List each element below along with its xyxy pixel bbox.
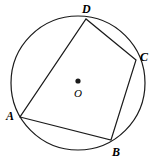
vertex-label-a: A [6, 110, 14, 122]
center-label-o: O [74, 88, 82, 99]
circle-center-dot [75, 78, 80, 83]
vertex-label-d: D [82, 3, 91, 15]
geometry-canvas [0, 0, 155, 164]
geometry-figure: A B C D O [0, 0, 155, 164]
vertex-label-b: B [112, 146, 120, 158]
vertex-label-c: C [140, 51, 148, 63]
